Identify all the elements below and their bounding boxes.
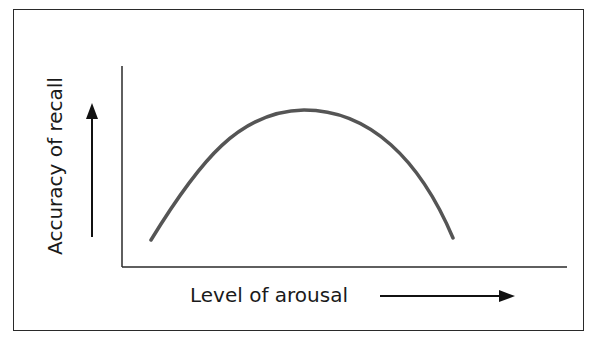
arrow-up-icon [86, 103, 98, 237]
x-axis-label: Level of arousal [190, 283, 348, 307]
arrow-right-icon [380, 290, 515, 302]
y-axis-label: Accuracy of recall [43, 77, 67, 255]
inverted-u-curve [151, 110, 453, 240]
